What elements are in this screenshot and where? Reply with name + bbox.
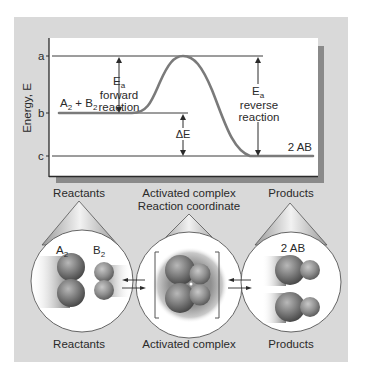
reaction-energy-diagram: Energy, E a b c Ea forward reaction A2 +…	[0, 0, 365, 372]
ea-reverse-line2: reaction	[239, 111, 280, 123]
level-a-label: a	[38, 50, 45, 62]
ea-reverse-line1: reverse	[240, 99, 278, 111]
delta-e-label: ΔE	[176, 128, 191, 140]
plot-shadow-bottom	[56, 177, 324, 183]
activated-top-label-2: Reaction coordinate	[138, 200, 240, 212]
activated-complex-view	[136, 232, 242, 338]
ea-forward-line2: reaction	[99, 101, 140, 113]
reactants-top-label: Reactants	[53, 187, 105, 199]
products-top-label: Products	[268, 187, 314, 199]
plot-shadow	[318, 46, 324, 183]
reactants-view: A2 B2	[30, 230, 133, 332]
products-view: 2 AB	[241, 232, 341, 332]
atom-b1	[94, 262, 114, 282]
products-bottom-label: Products	[268, 338, 314, 350]
products-molecule-label: 2 AB	[281, 242, 306, 254]
atom-a1	[57, 253, 85, 281]
atom-b-top	[300, 260, 320, 280]
reactants-bottom-label: Reactants	[53, 338, 105, 350]
ea-forward-line1: forward	[100, 89, 138, 101]
atom-b-bottom	[300, 297, 320, 317]
products-formula: 2 AB	[288, 141, 313, 153]
atom-b2	[94, 280, 114, 300]
atom-b2	[190, 285, 211, 306]
level-c-label: c	[38, 150, 44, 162]
level-b-label: b	[38, 107, 44, 119]
y-axis-label: Energy, E	[21, 83, 33, 133]
activated-top-label-1: Activated complex	[142, 187, 236, 199]
activated-bottom-label: Activated complex	[142, 338, 236, 350]
atom-a2	[57, 279, 85, 307]
atom-b1	[190, 264, 211, 285]
